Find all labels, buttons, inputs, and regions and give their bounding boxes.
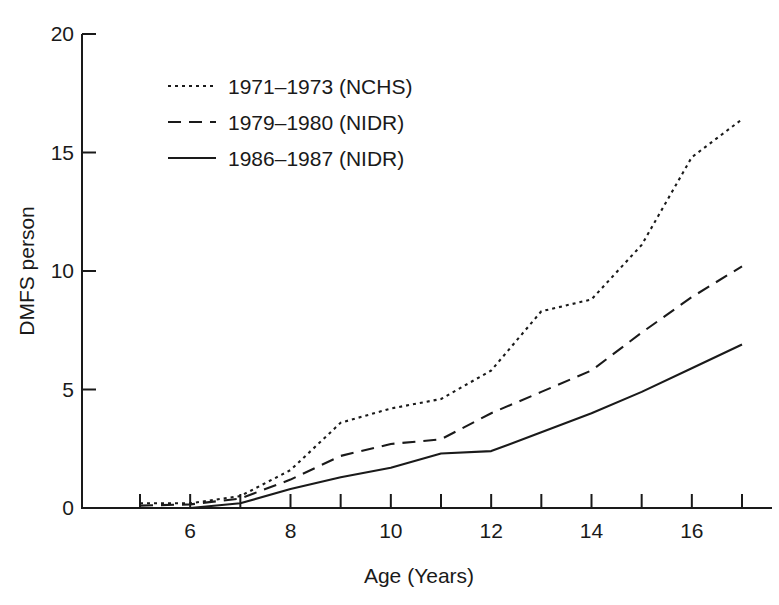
series-line-3 xyxy=(140,345,742,509)
axes xyxy=(82,34,772,508)
x-tick-label: 14 xyxy=(580,519,604,542)
series-line-1 xyxy=(140,119,742,503)
x-tick-label: 6 xyxy=(184,519,196,542)
chart-figure: 051015206810121416 1971–1973 (NCHS)1979–… xyxy=(0,0,779,605)
chart-legend: 1971–1973 (NCHS)1979–1980 (NIDR)1986–198… xyxy=(168,75,412,170)
line-chart: 051015206810121416 1971–1973 (NCHS)1979–… xyxy=(0,0,779,605)
legend-label-3: 1986–1987 (NIDR) xyxy=(228,147,404,170)
y-tick-label: 20 xyxy=(51,22,74,45)
axis-ticks xyxy=(82,34,742,508)
data-series xyxy=(140,119,742,508)
x-tick-label: 16 xyxy=(680,519,703,542)
y-tick-label: 0 xyxy=(62,496,74,519)
x-tick-label: 12 xyxy=(479,519,502,542)
y-axis-title: DMFS person xyxy=(15,206,38,336)
series-line-2 xyxy=(140,266,742,505)
y-tick-label: 15 xyxy=(51,141,74,164)
legend-label-1: 1971–1973 (NCHS) xyxy=(228,75,412,98)
y-tick-label: 10 xyxy=(51,259,74,282)
x-axis-title: Age (Years) xyxy=(364,564,474,587)
y-tick-label: 5 xyxy=(62,378,74,401)
x-tick-label: 10 xyxy=(379,519,402,542)
legend-label-2: 1979–1980 (NIDR) xyxy=(228,111,404,134)
axis-spine xyxy=(82,34,772,508)
axis-tick-labels: 051015206810121416 xyxy=(51,22,704,542)
x-tick-label: 8 xyxy=(285,519,297,542)
